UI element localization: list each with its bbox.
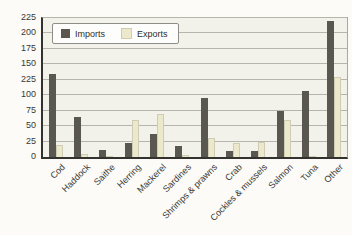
bar-exports-6	[208, 138, 215, 157]
y-tick-label: 0	[31, 152, 36, 161]
bar-exports-2	[106, 156, 113, 157]
bar-exports-9	[284, 120, 291, 157]
bar-imports-9	[277, 111, 284, 157]
plot-area: ImportsExports	[41, 17, 348, 159]
x-label-7: Crab	[223, 162, 244, 183]
bar-imports-7	[226, 151, 233, 157]
bar-exports-10	[309, 156, 316, 157]
legend-swatch-imports	[61, 29, 70, 38]
x-label-0: Cod	[48, 162, 67, 181]
y-tick-label: 225	[21, 74, 36, 83]
imports-exports-bar-chart: 0255075100225150175200225 ImportsExports…	[0, 0, 352, 235]
bar-imports-8	[251, 151, 258, 157]
y-tick-label: 175	[21, 43, 36, 52]
y-tick-label: 75	[26, 105, 36, 114]
gridline	[43, 48, 347, 49]
gridline	[43, 79, 347, 80]
bar-exports-8	[258, 142, 265, 157]
y-tick-label: 50	[26, 121, 36, 130]
y-tick-label: 200	[21, 28, 36, 37]
bar-exports-0	[56, 145, 63, 157]
legend-item-exports: Exports	[121, 28, 168, 39]
y-tick-label: 25	[26, 136, 36, 145]
y-tick-label: 150	[21, 59, 36, 68]
bar-imports-0	[49, 74, 56, 157]
bar-exports-7	[233, 143, 240, 157]
y-tick-label: 100	[21, 90, 36, 99]
bar-exports-1	[81, 154, 88, 157]
legend: ImportsExports	[52, 23, 179, 44]
bar-exports-11	[334, 77, 341, 157]
bar-imports-10	[302, 91, 309, 157]
bar-imports-4	[150, 134, 157, 157]
bar-imports-5	[175, 146, 182, 157]
bar-imports-1	[74, 117, 81, 157]
bar-exports-3	[132, 120, 139, 157]
gridline	[43, 63, 347, 64]
x-label-2: Saithe	[92, 162, 117, 187]
legend-label: Exports	[137, 29, 168, 39]
bar-exports-5	[182, 155, 189, 157]
y-tick-label: 225	[21, 13, 36, 22]
bar-imports-3	[125, 143, 132, 157]
legend-label: Imports	[75, 29, 105, 39]
bar-exports-4	[157, 114, 164, 157]
gridline	[43, 17, 347, 18]
bar-imports-2	[99, 150, 106, 157]
x-label-9: Salmon	[266, 162, 295, 191]
bar-imports-6	[201, 98, 208, 157]
x-label-10: Tuna	[299, 162, 320, 183]
x-axis-category-labels: CodHaddockSaitheHerringMackerelSardinesS…	[41, 160, 345, 235]
bar-imports-11	[327, 21, 334, 157]
y-axis-tick-labels: 0255075100225150175200225	[0, 17, 36, 156]
legend-item-imports: Imports	[61, 29, 105, 39]
x-label-11: Other	[322, 162, 345, 185]
legend-swatch-exports	[121, 28, 132, 39]
